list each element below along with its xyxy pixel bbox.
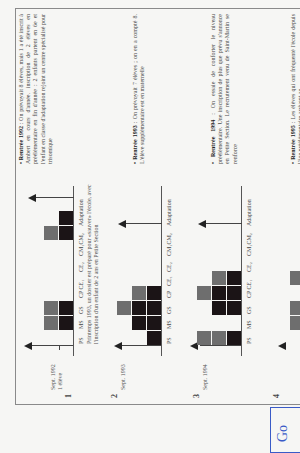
y-axis bbox=[120, 345, 162, 346]
class-label-cp-ce1: CP CE₁ bbox=[78, 280, 84, 298]
section-number: 1 bbox=[64, 394, 73, 398]
class-label-cm: CM₁CM₂ bbox=[78, 233, 84, 256]
student-square bbox=[59, 211, 73, 225]
student-square bbox=[59, 226, 73, 240]
student-square bbox=[227, 286, 241, 300]
text-rentree-1992: • Rentrée 1992 : On prévoyait 8 élèves, … bbox=[18, 14, 54, 164]
class-label-ce2: CE₂ bbox=[246, 262, 252, 272]
student-square bbox=[227, 331, 241, 345]
class-label-gs: GS bbox=[246, 306, 252, 314]
student-square bbox=[132, 286, 146, 300]
y-axis-right bbox=[36, 197, 74, 198]
student-square bbox=[290, 316, 300, 330]
section-1992: 1 Sept. 1992 1 élève bbox=[16, 9, 91, 404]
class-label-ce2: CE₂ bbox=[166, 262, 172, 272]
document-page: 1 Sept. 1992 1 élève bbox=[0, 0, 300, 453]
student-square bbox=[132, 316, 146, 330]
class-label-ms: MS bbox=[166, 320, 172, 329]
student-square bbox=[147, 316, 161, 330]
student-square bbox=[212, 286, 226, 300]
student-square bbox=[212, 331, 226, 345]
section-1994: 3 Sept. 1994 bbox=[188, 9, 268, 404]
class-label-gs: GS bbox=[166, 306, 172, 314]
section-1993: 2 Sept. 1993 PS MS bbox=[104, 9, 174, 404]
class-label-cm: CM₁CM₂ bbox=[166, 233, 172, 256]
arrow-up-icon bbox=[28, 194, 36, 202]
class-label-ce2: CE₂ bbox=[78, 262, 84, 272]
text-rentree-1994: • Rentrée 1994 : On essaie de conforter … bbox=[210, 14, 239, 164]
student-square bbox=[197, 331, 211, 345]
student-square bbox=[290, 271, 300, 285]
text-rentree-1995: • Rentrée 1995 : Les élèves qui ont fréq… bbox=[290, 14, 300, 164]
text-rentree-1993: • Rentrée 1993 : On prévoyait 7 élèves ;… bbox=[132, 14, 146, 164]
note-printemps-1993: Printemps 1993, un dossier est préparé p… bbox=[86, 179, 100, 344]
student-square bbox=[227, 301, 241, 315]
student-square bbox=[59, 316, 73, 330]
enrollment-chart-1993: PS MS GS CP CE₁ CE₂ CM₁CM₂ Adaptation bbox=[108, 186, 172, 356]
student-square bbox=[132, 301, 146, 315]
class-label-cp-ce1: CP CE₁ bbox=[246, 280, 252, 298]
date-label: Sept. 1992 1 élève bbox=[50, 364, 64, 390]
class-label-cp: CP bbox=[166, 291, 172, 298]
class-label-ps: PS bbox=[78, 337, 84, 344]
student-square bbox=[44, 316, 58, 330]
date-label: Sept. 1993 bbox=[120, 364, 127, 390]
x-axis bbox=[241, 186, 242, 356]
y-axis bbox=[32, 345, 74, 346]
section-number: 4 bbox=[272, 394, 281, 398]
x-axis bbox=[73, 186, 74, 356]
y-axis-right bbox=[204, 223, 242, 224]
arrow-up-icon bbox=[278, 342, 286, 350]
arrow-up-icon bbox=[114, 342, 122, 350]
student-square bbox=[212, 301, 226, 315]
class-label-ms: MS bbox=[78, 320, 84, 329]
y-axis-right bbox=[124, 223, 162, 224]
section-1995: 4 • Rentrée 1995 : Les élèves qui ont fr… bbox=[268, 9, 300, 404]
student-square bbox=[147, 301, 161, 315]
axis-tick bbox=[59, 345, 60, 350]
class-label-adaptation: Adaptation bbox=[166, 199, 172, 226]
y-axis bbox=[200, 345, 242, 346]
arrow-up-icon bbox=[118, 220, 126, 228]
student-square bbox=[147, 286, 161, 300]
student-square bbox=[227, 271, 241, 285]
class-label-ps: PS bbox=[246, 337, 252, 344]
student-square bbox=[147, 331, 161, 345]
enrollment-chart-1995 bbox=[268, 186, 300, 356]
date-label: Sept. 1994 bbox=[202, 364, 209, 390]
student-square bbox=[212, 271, 226, 285]
section-number: 2 bbox=[110, 394, 119, 398]
arrow-up-icon bbox=[24, 342, 32, 350]
student-square bbox=[44, 226, 58, 240]
class-label-ce1: CE₁ bbox=[166, 276, 172, 286]
class-label-ms: MS bbox=[246, 320, 252, 329]
class-label-adaptation: Adaptation bbox=[246, 199, 252, 226]
class-label-ps: PS bbox=[166, 337, 172, 344]
enrollment-chart-1992: PS MS GS CP CE₁ CE₂ CM₁CM₂ Adaptation bbox=[24, 186, 84, 356]
student-square bbox=[197, 286, 211, 300]
student-square bbox=[290, 301, 300, 315]
library-stamp: Go bbox=[270, 407, 300, 453]
arrow-up-icon bbox=[198, 220, 206, 228]
section-number: 3 bbox=[192, 394, 201, 398]
student-square bbox=[44, 301, 58, 315]
student-square bbox=[117, 301, 131, 315]
class-label-cm: CM₁CM₂ bbox=[246, 233, 252, 256]
enrollment-chart-1994: PS MS GS CP CE₁ CE₂ CM₁CM₂ Adaptation bbox=[188, 186, 252, 356]
class-label-gs: GS bbox=[78, 306, 84, 314]
page-frame: 1 Sept. 1992 1 élève bbox=[15, 8, 300, 405]
class-label-adaptation: Adaptation bbox=[78, 199, 84, 226]
x-axis bbox=[161, 186, 162, 356]
student-square bbox=[59, 301, 73, 315]
